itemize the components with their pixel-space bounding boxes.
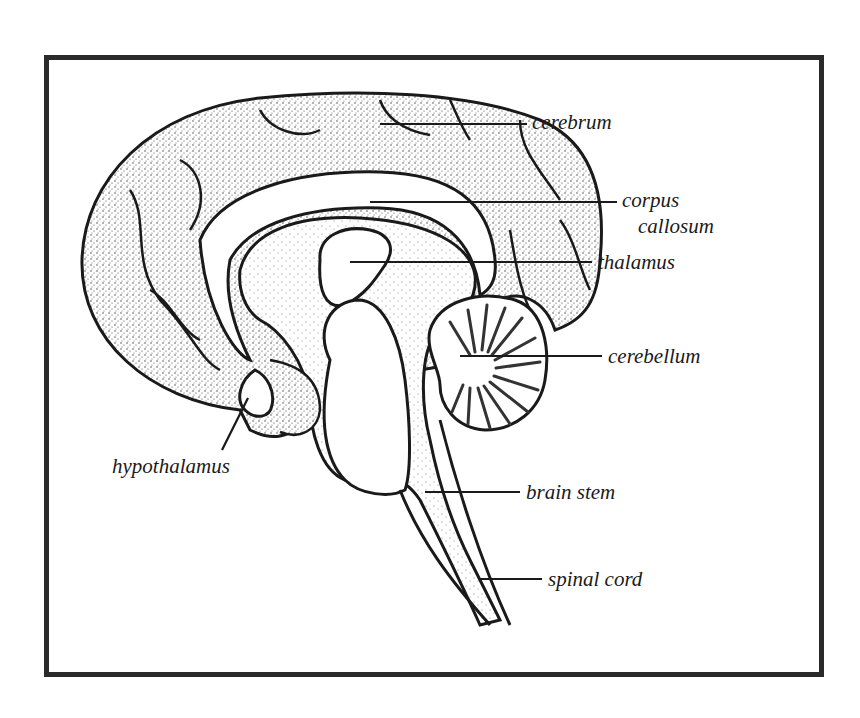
brain-illustration	[0, 0, 860, 718]
label-thalamus: thalamus	[598, 252, 675, 273]
label-hypothalamus: hypothalamus	[112, 456, 230, 477]
label-brain-stem: brain stem	[526, 482, 615, 503]
cerebellum-shape	[429, 296, 547, 430]
label-corpus-callosum-line1: corpus	[622, 190, 679, 211]
label-cerebrum: cerebrum	[532, 112, 612, 133]
label-spinal-cord: spinal cord	[548, 569, 642, 590]
label-cerebellum: cerebellum	[608, 346, 701, 367]
label-corpus-callosum-line2: callosum	[638, 216, 714, 237]
